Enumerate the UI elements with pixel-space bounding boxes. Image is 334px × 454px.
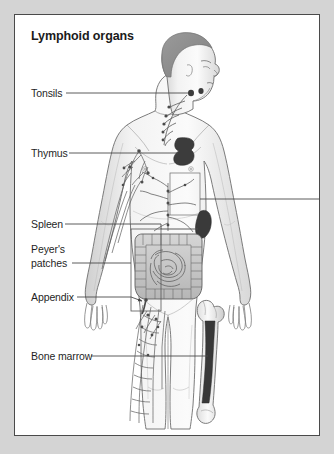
- label-peyers-patches-line1: Peyer's: [31, 243, 65, 255]
- head-profile: [162, 33, 220, 115]
- label-appendix: Appendix: [31, 291, 74, 303]
- femur-bone: [197, 300, 224, 423]
- lymphoid-organs-figure: Lymphoid organs: [0, 0, 334, 454]
- intestines: [135, 234, 202, 299]
- label-tonsils: Tonsils: [31, 87, 62, 99]
- figure-panel: Lymphoid organs: [14, 14, 320, 436]
- label-thymus: Thymus: [31, 147, 68, 159]
- label-peyers-patches-line2: patches: [31, 257, 67, 269]
- label-bone-marrow: Bone marrow: [31, 350, 92, 362]
- label-spleen: Spleen: [31, 218, 63, 230]
